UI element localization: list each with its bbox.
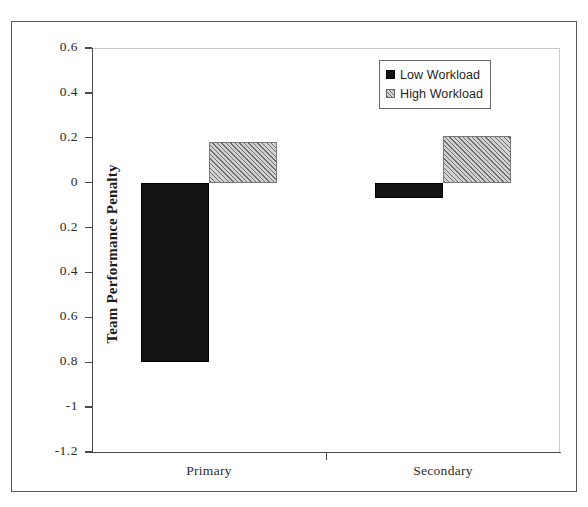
y-axis-tick (85, 272, 92, 273)
y-axis-tick (85, 451, 92, 452)
y-axis-tick (85, 406, 92, 407)
x-axis-category-label: Primary (139, 463, 279, 479)
bar-secondary-high-workload (443, 136, 511, 183)
y-axis-tick (85, 182, 92, 183)
y-axis-tick (85, 137, 92, 138)
x-axis-category-label: Secondary (373, 463, 513, 479)
chart-figure: Team Performance Penalty 0.60.40.200.20.… (0, 0, 588, 507)
y-axis-tick (85, 92, 92, 93)
y-axis-tick (85, 227, 92, 228)
y-axis-title: Team Performance Penalty (104, 164, 121, 343)
legend-item-label: High Workload (400, 87, 483, 101)
y-axis-tick (85, 362, 92, 363)
legend-item-label: Low Workload (400, 68, 480, 82)
legend-item[interactable]: Low Workload (386, 65, 483, 84)
hatched-gray-square-icon (386, 89, 395, 98)
bar-primary-low-workload (141, 183, 209, 363)
bar-primary-high-workload (209, 142, 277, 182)
x-axis-tick (326, 453, 327, 460)
bar-secondary-low-workload (375, 183, 443, 199)
solid-black-square-icon (386, 70, 395, 79)
chart-legend: Low Workload High Workload (379, 60, 491, 109)
y-axis-tick (85, 47, 92, 48)
legend-item[interactable]: High Workload (386, 84, 483, 103)
y-axis-tick (85, 317, 92, 318)
